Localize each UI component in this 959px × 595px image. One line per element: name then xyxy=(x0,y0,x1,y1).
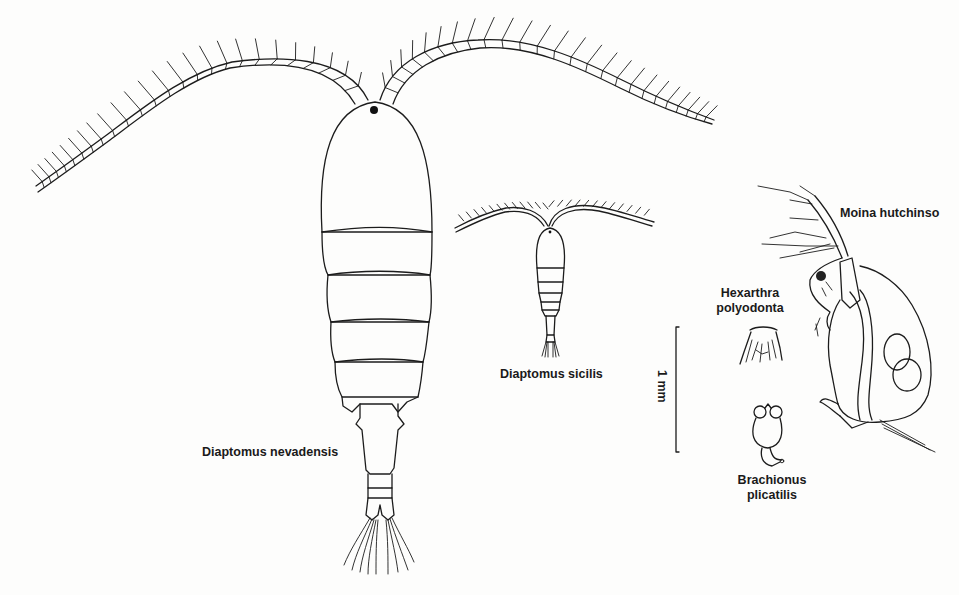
antenna-detail xyxy=(571,38,585,57)
eye-spot xyxy=(370,106,378,114)
antenna-detail xyxy=(124,92,140,110)
antenna-detail xyxy=(520,202,525,208)
antenna-detail xyxy=(558,200,563,206)
antenna-detail xyxy=(528,202,533,208)
antenna-detail xyxy=(385,88,398,93)
antenna-detail xyxy=(615,78,617,86)
antenna-detail xyxy=(183,82,184,88)
right-antenna xyxy=(380,17,717,124)
antenna-detail xyxy=(688,97,700,110)
antenna-detail xyxy=(549,201,554,207)
antenna-detail xyxy=(255,59,259,65)
antenna-detail xyxy=(77,131,91,146)
diaptomus-sicilis-drawing xyxy=(455,200,654,357)
antenna-detail xyxy=(438,47,445,56)
antenna-detail xyxy=(537,25,550,46)
scale-bar-label: 1 mm xyxy=(654,370,669,403)
diaptomus-nevadensis-drawing xyxy=(32,17,717,574)
antenna-detail xyxy=(676,106,678,113)
antenna-detail xyxy=(138,81,154,100)
illustration xyxy=(0,0,959,595)
antenna-detail xyxy=(183,53,197,74)
antenna-detail xyxy=(271,59,277,65)
antenna-detail xyxy=(566,200,571,206)
antenna-detail xyxy=(654,96,656,103)
antenna-detail xyxy=(101,139,103,145)
label-hexarthra-polyodonta: Hexarthra polyodonta xyxy=(702,286,798,316)
hexarthra-polyodonta-drawing xyxy=(740,327,782,364)
antenna-detail xyxy=(236,39,243,61)
thoracic-segment-1 xyxy=(322,232,432,275)
antenna-detail xyxy=(554,51,555,59)
antenna-detail xyxy=(489,206,494,212)
antenna-detail xyxy=(345,61,348,75)
antenna-detail xyxy=(610,203,615,209)
antenna-detail xyxy=(474,210,479,216)
antenna-detail xyxy=(656,81,669,96)
antenna-detail xyxy=(535,202,540,208)
antenna-detail xyxy=(631,68,644,84)
antenna-detail xyxy=(706,106,717,117)
antenna-detail xyxy=(642,91,644,99)
antenna-detail xyxy=(520,21,532,42)
antenna-detail xyxy=(45,159,57,172)
antenna-detail xyxy=(113,131,115,137)
antenna-detail xyxy=(32,170,42,182)
antenna-detail xyxy=(345,86,358,91)
antenna-detail xyxy=(603,53,617,71)
label-diaptomus-sicilis: Diaptomus sicilis xyxy=(500,367,603,382)
label-diaptomus-nevadensis: Diaptomus nevadensis xyxy=(202,445,338,460)
antenna-detail xyxy=(617,61,631,78)
antenna-detail xyxy=(49,177,51,183)
antenna-detail xyxy=(393,77,405,83)
thoracic-segment-2 xyxy=(327,275,431,322)
antenna-detail xyxy=(587,45,601,63)
antenna-detail xyxy=(38,165,49,177)
label-line: Hexarthra xyxy=(702,286,798,301)
antenna-detail xyxy=(217,41,227,63)
antenna-detail xyxy=(438,27,441,47)
antenna-detail xyxy=(697,102,708,114)
antenna-detail xyxy=(636,207,641,213)
antenna-detail xyxy=(152,71,168,91)
label-line: Brachionus xyxy=(724,473,820,488)
moina-hutchinsoni-drawing xyxy=(758,186,935,452)
antenna-detail xyxy=(704,117,706,122)
antenna-detail xyxy=(330,53,332,68)
antenna-detail xyxy=(60,145,73,159)
scale-bar xyxy=(676,327,679,452)
antenna-detail xyxy=(425,33,427,52)
antenna-detail xyxy=(64,166,66,172)
brachionus-plicatilis-drawing xyxy=(753,404,784,466)
antenna-detail xyxy=(543,203,548,209)
antenna-detail xyxy=(482,207,487,213)
antenna-detail xyxy=(678,92,690,106)
antenna-detail xyxy=(468,41,471,49)
antenna-detail xyxy=(586,64,588,72)
antenna-detail xyxy=(303,63,313,69)
antenna-detail xyxy=(313,47,314,63)
antenna-detail xyxy=(452,22,457,43)
antenna-detail xyxy=(484,17,494,39)
compound-eye xyxy=(816,271,826,281)
antenna-detail xyxy=(459,215,464,221)
antenna-detail xyxy=(412,59,422,67)
antenna-detail xyxy=(401,50,402,67)
antenna-detail xyxy=(255,39,259,59)
left-antenna xyxy=(32,39,368,192)
antenna-detail xyxy=(618,204,623,210)
antenna-detail xyxy=(98,114,113,131)
antenna-detail xyxy=(502,18,513,40)
antenna-detail xyxy=(468,19,476,41)
antenna-detail xyxy=(466,212,471,218)
antenna-detail xyxy=(319,68,331,73)
antenna-detail xyxy=(570,57,571,65)
thoracic-segment-4 xyxy=(335,362,423,397)
antenna-detail xyxy=(52,152,64,166)
antenna-detail xyxy=(42,182,44,188)
antenna-detail xyxy=(287,60,295,66)
antenna-detail xyxy=(644,75,657,91)
urosome xyxy=(356,404,404,474)
antenna-detail xyxy=(601,71,603,79)
antenna-detail xyxy=(73,160,75,166)
